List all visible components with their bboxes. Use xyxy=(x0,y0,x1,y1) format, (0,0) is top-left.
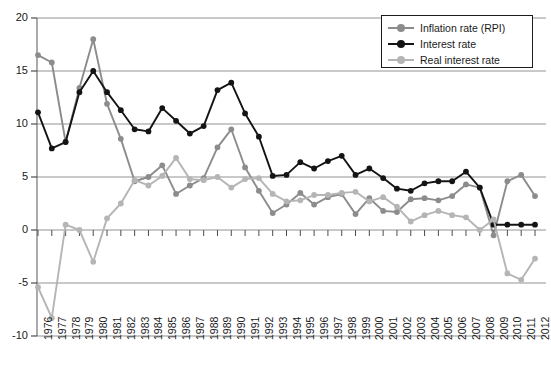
x-tick-label: 1993 xyxy=(278,317,288,340)
x-tick-label: 1981 xyxy=(112,317,122,340)
y-tick-label: 20 xyxy=(2,12,28,23)
x-tick-label: 1997 xyxy=(333,317,343,340)
x-tick-label: 2005 xyxy=(443,317,453,340)
legend-label: Interest rate xyxy=(420,38,476,50)
legend-marker-icon xyxy=(388,38,414,50)
x-tick-label: 2011 xyxy=(526,317,536,340)
legend-item: Inflation rate (RPI) xyxy=(382,20,532,36)
x-tick-label: 1979 xyxy=(84,317,94,340)
x-tick-label: 1999 xyxy=(361,317,371,340)
x-tick-label: 2006 xyxy=(457,317,467,340)
x-tick-label: 1995 xyxy=(305,317,315,340)
x-tick-label: 2000 xyxy=(374,317,384,340)
x-tick-label: 2002 xyxy=(402,317,412,340)
legend-item: Real interest rate xyxy=(382,52,532,68)
y-tick-label: 0 xyxy=(2,224,28,235)
x-tick-label: 1989 xyxy=(222,317,232,340)
x-tick-label: 1987 xyxy=(195,317,205,340)
legend-label: Inflation rate (RPI) xyxy=(420,22,505,34)
y-tick-label: -10 xyxy=(2,330,28,341)
x-tick-label: 1986 xyxy=(181,317,191,340)
legend-label: Real interest rate xyxy=(420,54,500,66)
x-tick-label: 1988 xyxy=(209,317,219,340)
x-tick-label: 1985 xyxy=(167,317,177,340)
legend-item: Interest rate xyxy=(382,36,532,52)
x-tick-label: 1984 xyxy=(153,317,163,340)
x-tick-label: 2003 xyxy=(416,317,426,340)
x-tick-label: 2007 xyxy=(471,317,481,340)
x-tick-label: 1978 xyxy=(71,317,81,340)
x-tick-label: 1980 xyxy=(98,317,108,340)
x-tick-label: 2001 xyxy=(388,317,398,340)
x-tick-label: 1976 xyxy=(43,317,53,340)
x-tick-label: 2004 xyxy=(430,317,440,340)
x-tick-label: 2009 xyxy=(499,317,509,340)
legend-marker-icon xyxy=(388,54,414,66)
x-tick-label: 1977 xyxy=(57,317,67,340)
x-tick-label: 1982 xyxy=(126,317,136,340)
x-tick-label: 1998 xyxy=(347,317,357,340)
x-tick-label: 2010 xyxy=(512,317,522,340)
series-2 xyxy=(35,155,538,321)
y-tick-label: 10 xyxy=(2,118,28,129)
x-tick-label: 1991 xyxy=(250,317,260,340)
x-tick-label: 1983 xyxy=(140,317,150,340)
x-tick-label: 1994 xyxy=(292,317,302,340)
chart-legend: Inflation rate (RPI)Interest rateReal in… xyxy=(381,15,533,68)
x-tick-label: 2012 xyxy=(540,317,550,340)
y-tick-label: 15 xyxy=(2,65,28,76)
y-tick-label: 5 xyxy=(2,171,28,182)
x-tick-label: 2008 xyxy=(485,317,495,340)
y-tick-label: -5 xyxy=(2,277,28,288)
legend-marker-icon xyxy=(388,22,414,34)
x-tick-label: 1992 xyxy=(264,317,274,340)
x-tick-label: 1990 xyxy=(236,317,246,340)
x-tick-label: 1996 xyxy=(319,317,329,340)
